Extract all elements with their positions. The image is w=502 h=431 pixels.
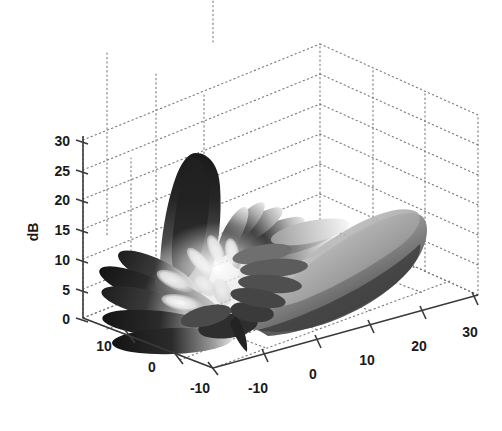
surface-plot-3d: dB 30 25 20 15 10 5 0 10 0 -10 -10 0 10 … xyxy=(0,0,502,431)
z-tick-label: 10 xyxy=(54,252,70,268)
radiation-pattern-surface xyxy=(95,153,427,356)
z-tick-label: 30 xyxy=(54,133,70,149)
y-tick-label: 10 xyxy=(359,352,375,368)
z-axis-title: dB xyxy=(25,223,41,242)
z-tick-labels: 30 25 20 15 10 5 0 xyxy=(54,133,70,327)
y-tick-label: 20 xyxy=(411,338,427,354)
x-tick-label: 0 xyxy=(148,359,156,375)
z-tick-label: 15 xyxy=(54,222,70,238)
z-tick-label: 25 xyxy=(54,163,70,179)
z-tick-label: 5 xyxy=(62,282,70,298)
y-tick-label: 0 xyxy=(309,366,317,382)
y-tick-labels: -10 0 10 20 30 xyxy=(248,324,478,396)
x-tick-label: 10 xyxy=(96,338,112,354)
z-tick-label: 20 xyxy=(54,192,70,208)
y-tick-label: 30 xyxy=(462,324,478,340)
figure-canvas: dB 30 25 20 15 10 5 0 10 0 -10 -10 0 10 … xyxy=(0,0,502,431)
y-tick-label: -10 xyxy=(248,380,268,396)
z-tick-label: 0 xyxy=(62,311,70,327)
x-tick-label: -10 xyxy=(190,380,210,396)
z-axis-ticks xyxy=(76,140,88,322)
